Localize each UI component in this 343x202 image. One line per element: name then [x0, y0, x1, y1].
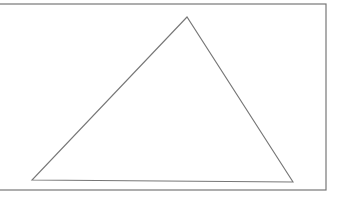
triangle-shape	[32, 17, 293, 182]
diagram-canvas	[0, 0, 343, 202]
